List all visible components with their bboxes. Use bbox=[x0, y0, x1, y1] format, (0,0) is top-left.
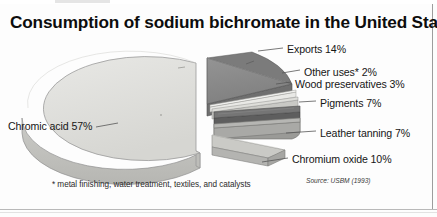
leader-line-pigments bbox=[299, 101, 316, 102]
pie-slice-chromium-oxide bbox=[212, 135, 285, 166]
leader-line-other-uses bbox=[282, 70, 300, 73]
slice-label-chromium-oxide: Chromium oxide 10% bbox=[292, 153, 391, 165]
chart-source: Source: USBM (1993) bbox=[306, 177, 371, 184]
figure-canvas: Consumption of sodium bichromate in the … bbox=[0, 0, 437, 217]
slice-label-chromic-acid: Chromic acid 57% bbox=[8, 120, 92, 132]
slice-label-leather-tanning: Leather tanning 7% bbox=[320, 127, 410, 139]
slice-label-pigments: Pigments 7% bbox=[320, 97, 381, 109]
slice-label-other-uses: Other uses* 2% bbox=[304, 66, 377, 78]
slice-label-wood-preservatives: Wood preservatives 3% bbox=[295, 78, 405, 90]
leader-line-exports bbox=[258, 48, 283, 51]
slice-label-exports: Exports 14% bbox=[287, 43, 346, 55]
pie-slice-chromic-acid bbox=[22, 51, 200, 184]
chart-footnote: * metal finishing, water treatment, text… bbox=[52, 180, 251, 189]
